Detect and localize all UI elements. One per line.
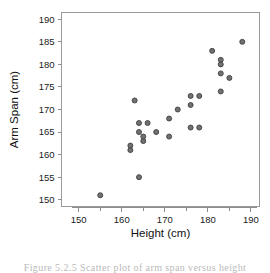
data-point: [136, 130, 141, 135]
y-tick-label-185: 185: [39, 36, 55, 47]
data-point: [188, 93, 193, 98]
data-point: [227, 75, 232, 80]
data-point: [240, 39, 245, 44]
data-point: [188, 125, 193, 130]
data-point: [167, 134, 172, 139]
y-tick-label-190: 190: [39, 14, 55, 25]
x-tick-label-170: 170: [157, 214, 173, 225]
data-point: [175, 107, 180, 112]
data-point: [188, 102, 193, 107]
data-point: [197, 93, 202, 98]
data-point: [218, 89, 223, 94]
data-point: [128, 148, 133, 153]
y-axis-title: Arm Span (cm): [8, 71, 20, 148]
data-point: [98, 193, 103, 198]
x-tick-label-150: 150: [71, 214, 87, 225]
x-tick-label-160: 160: [114, 214, 130, 225]
y-tick-label-155: 155: [39, 172, 55, 183]
data-point: [136, 175, 141, 180]
x-axis-title: Height (cm): [131, 227, 191, 239]
y-tick-label-170: 170: [39, 104, 55, 115]
data-point: [145, 121, 150, 126]
y-tick-label-165: 165: [39, 126, 55, 137]
y-tick-label-175: 175: [39, 81, 55, 92]
y-tick-label-160: 160: [39, 149, 55, 160]
x-tick-label-190: 190: [243, 214, 259, 225]
x-tick-label-180: 180: [200, 214, 216, 225]
data-point: [197, 125, 202, 130]
data-point: [154, 130, 159, 135]
data-point: [210, 48, 215, 53]
y-tick-label-180: 180: [39, 59, 55, 70]
data-point: [218, 71, 223, 76]
plot-frame: [62, 13, 260, 207]
data-point: [167, 116, 172, 121]
data-point: [218, 62, 223, 67]
data-point: [136, 121, 141, 126]
data-point: [141, 134, 146, 139]
y-tick-label-150: 150: [39, 194, 55, 205]
data-point: [132, 98, 137, 103]
figure-caption: Figure 5.2.5 Scatter plot of arm span ve…: [0, 262, 270, 273]
